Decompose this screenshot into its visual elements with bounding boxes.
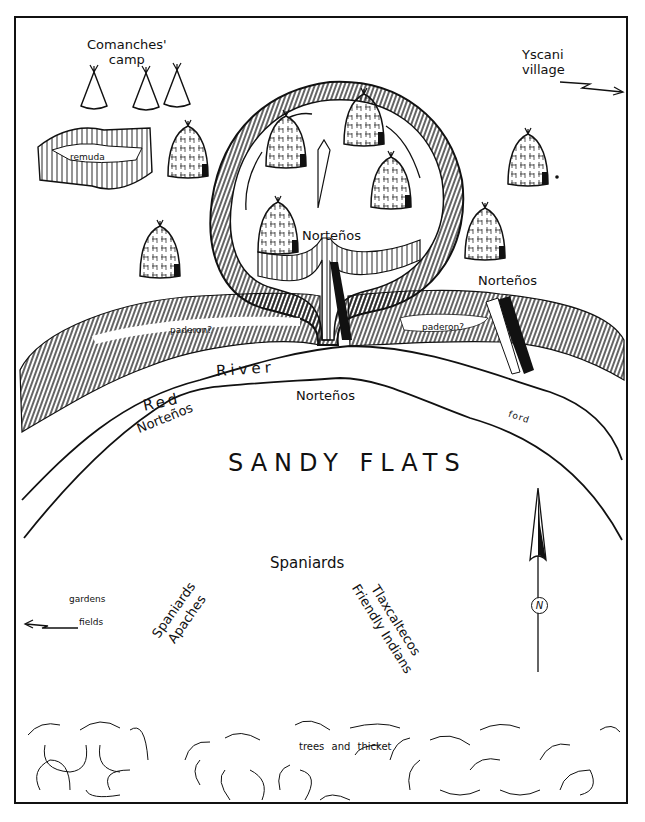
- arrow-left-icon: [25, 620, 78, 628]
- label-paderon-east: paderon?: [422, 323, 464, 332]
- compass-north-label: N: [531, 597, 548, 614]
- arrow-right-icon: [560, 82, 623, 95]
- label-fields: fields: [79, 618, 103, 627]
- label-yscani-village: Yscani village: [522, 48, 565, 76]
- label-nortenos-fort: Norteños: [302, 229, 361, 242]
- tipi-icon: [133, 66, 159, 110]
- grass-hut-icon: [168, 120, 208, 178]
- map-drawing: [0, 0, 645, 822]
- trees-thicket: [28, 721, 620, 800]
- label-nortenos-bank-center: Norteños: [296, 389, 355, 402]
- north-arrow-icon: [530, 488, 546, 672]
- grass-hut-icon: [140, 220, 180, 278]
- tipi-icon: [164, 63, 190, 107]
- label-trees-thicket: trees and thicket: [299, 742, 392, 752]
- label-sandy-flats: SANDY FLATS: [228, 451, 467, 475]
- label-gardens: gardens: [69, 595, 105, 604]
- label-nortenos-east: Norteños: [478, 274, 537, 287]
- label-river-river: River: [216, 360, 276, 379]
- label-remuda: remuda: [70, 153, 105, 162]
- map-canvas: Comanches' camp Yscani village remuda No…: [0, 0, 645, 822]
- label-paderon-west: paderon?: [170, 326, 212, 335]
- grass-hut-icon: [508, 128, 548, 186]
- bluff-east: [348, 290, 624, 380]
- grass-hut-icon: [465, 202, 505, 260]
- tipi-icon: [81, 65, 107, 109]
- label-spaniards-center: Spaniards: [270, 556, 344, 571]
- label-comanches-camp: Comanches' camp: [87, 38, 167, 66]
